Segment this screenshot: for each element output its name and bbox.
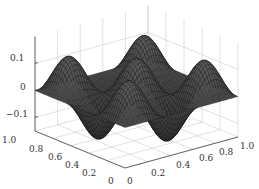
- y-tick-0.8: 0.8: [29, 144, 44, 154]
- x-tick-0.2: 0.2: [151, 168, 165, 178]
- x-tick-0.8: 0.8: [219, 147, 234, 157]
- surface-plot: 0.1 0 −0.1 1.0 0.8 0.6 0.4 0.2 0 0 0.2 0…: [0, 0, 259, 189]
- y-tick-0.4: 0.4: [65, 160, 80, 170]
- y-tick-0: 0: [108, 176, 114, 186]
- x-tick-1.0: 1.0: [240, 141, 255, 151]
- y-tick-1.0: 1.0: [2, 135, 17, 145]
- z-tick-0.1: 0.1: [10, 53, 24, 63]
- surface-mesh: [35, 36, 238, 141]
- x-tick-0: 0: [127, 176, 133, 186]
- x-tick-0.4: 0.4: [176, 160, 191, 170]
- y-tick-0.2: 0.2: [82, 168, 96, 178]
- z-tick-neg0.1: −0.1: [6, 109, 28, 119]
- z-tick-0: 0: [20, 82, 26, 92]
- x-tick-0.6: 0.6: [199, 153, 214, 163]
- y-tick-0.6: 0.6: [48, 152, 63, 162]
